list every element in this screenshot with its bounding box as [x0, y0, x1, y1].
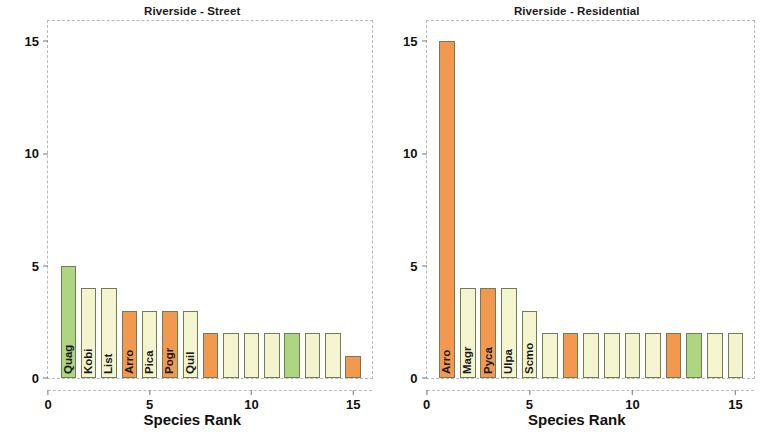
- x-tick: 10: [625, 390, 639, 412]
- bar: [305, 333, 320, 378]
- x-tick-mark: [251, 390, 252, 395]
- chart-title-street: Riverside - Street: [0, 5, 385, 17]
- bar: Quil: [183, 311, 198, 378]
- x-axis-title-street: Species Rank: [0, 411, 385, 428]
- x-axis-line-street: [48, 390, 372, 391]
- x-tick: 0: [423, 390, 430, 412]
- y-tick-label: 15: [25, 34, 39, 49]
- bar: [203, 333, 218, 378]
- y-tick: 15: [25, 34, 48, 49]
- x-tick-mark: [735, 390, 736, 395]
- x-tick: 5: [526, 390, 533, 412]
- x-tick-label: 5: [526, 397, 533, 412]
- bar: Magr: [460, 288, 476, 378]
- y-tick: 10: [25, 146, 48, 161]
- y-tick-label: 10: [25, 146, 39, 161]
- y-tick-mark: [43, 41, 48, 42]
- bar: [542, 333, 558, 378]
- y-tick-mark: [422, 41, 427, 42]
- bar: [244, 333, 259, 378]
- bar: [563, 333, 579, 378]
- y-tick: 0: [410, 371, 426, 386]
- y-tick-label: 0: [32, 371, 39, 386]
- x-tick: 5: [146, 390, 153, 412]
- bars-layer-residential: ArroMagrPycaUlpaScmo: [427, 21, 755, 378]
- bar: [666, 333, 682, 378]
- bar: [583, 333, 599, 378]
- figure-canvas: Riverside - Street Species Abundance Qua…: [0, 0, 769, 432]
- bar: [645, 333, 661, 378]
- bar: Quag: [61, 266, 76, 378]
- x-tick: 0: [44, 390, 51, 412]
- bar: [325, 333, 340, 378]
- bar: Pyca: [480, 288, 496, 378]
- bar: List: [101, 288, 116, 378]
- y-tick: 15: [403, 34, 426, 49]
- y-tick: 0: [32, 371, 48, 386]
- y-tick-label: 15: [403, 34, 417, 49]
- y-tick: 10: [403, 146, 426, 161]
- bar: [264, 333, 279, 378]
- x-tick-label: 10: [244, 397, 258, 412]
- x-tick-label: 0: [44, 397, 51, 412]
- bar: Kobi: [81, 288, 96, 378]
- bar: [728, 333, 744, 378]
- y-tick-label: 5: [32, 258, 39, 273]
- y-tick: 5: [32, 258, 48, 273]
- x-tick-label: 10: [625, 397, 639, 412]
- y-tick-label: 10: [403, 146, 417, 161]
- bar: Arro: [439, 41, 455, 378]
- x-tick: 15: [728, 390, 742, 412]
- y-tick-mark: [422, 153, 427, 154]
- plot-area-residential: ArroMagrPycaUlpaScmo 051015 051015: [426, 20, 756, 379]
- bar: Arro: [122, 311, 137, 378]
- bar: Ulpa: [501, 288, 517, 378]
- bar: [707, 333, 723, 378]
- bar: Scmo: [522, 311, 538, 378]
- chart-title-residential: Riverside - Residential: [385, 5, 769, 17]
- plot-area-street: QuagKobiListArroPicaPogrQuil 051015 0510…: [47, 20, 373, 379]
- x-tick-label: 15: [346, 397, 360, 412]
- x-axis-title-residential: Species Rank: [385, 411, 769, 428]
- y-tick-mark: [43, 153, 48, 154]
- y-tick-mark: [422, 265, 427, 266]
- x-tick: 15: [346, 390, 360, 412]
- x-tick-mark: [632, 390, 633, 395]
- bars-layer-street: QuagKobiListArroPicaPogrQuil: [48, 21, 372, 378]
- y-tick: 5: [410, 258, 426, 273]
- x-tick-mark: [353, 390, 354, 395]
- bar: Pica: [142, 311, 157, 378]
- bar: [223, 333, 238, 378]
- x-axis-line-residential: [427, 390, 755, 391]
- chart-panel-residential: Riverside - Residential ArroMagrPycaUlpa…: [385, 0, 769, 432]
- x-tick-mark: [426, 390, 427, 395]
- bar: [284, 333, 299, 378]
- bar: [604, 333, 620, 378]
- x-tick-mark: [47, 390, 48, 395]
- bar: [345, 356, 360, 378]
- x-tick-mark: [529, 390, 530, 395]
- bar: [686, 333, 702, 378]
- x-tick-mark: [149, 390, 150, 395]
- x-tick: 10: [244, 390, 258, 412]
- x-tick-label: 15: [728, 397, 742, 412]
- x-tick-label: 5: [146, 397, 153, 412]
- bar: [625, 333, 641, 378]
- chart-panel-street: Riverside - Street Species Abundance Qua…: [0, 0, 385, 432]
- y-tick-label: 5: [410, 258, 417, 273]
- bar: Pogr: [162, 311, 177, 378]
- x-tick-label: 0: [423, 397, 430, 412]
- y-tick-mark: [43, 265, 48, 266]
- y-tick-label: 0: [410, 371, 417, 386]
